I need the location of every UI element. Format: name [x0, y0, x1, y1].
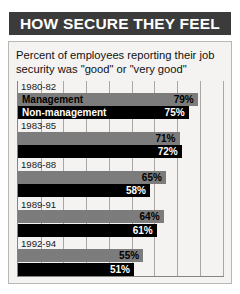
bar-non-management[interactable]: 58% — [18, 184, 150, 197]
bar-group: 1986-8865%58% — [18, 159, 224, 198]
year-label: 1983-85 — [21, 120, 56, 131]
bar-non-management[interactable]: 51% — [18, 263, 134, 276]
bar-value-label: 51% — [110, 264, 130, 275]
year-label: 1986-88 — [21, 159, 56, 170]
year-label: 1980-82 — [21, 81, 56, 92]
bar-group: 1980-82Management79%Non-management75% — [18, 81, 224, 120]
bar-row[interactable]: 71% — [18, 132, 180, 145]
bar-row[interactable]: 65% — [18, 171, 166, 184]
chart-subtitle: Percent of employees reporting their job… — [16, 48, 226, 76]
year-label: 1992-94 — [21, 238, 56, 249]
bar-value-label: 65% — [142, 172, 162, 183]
bar-non-management[interactable]: 61% — [18, 224, 157, 237]
bar-value-label: 55% — [119, 250, 139, 261]
chart-card: Percent of employees reporting their job… — [8, 41, 232, 284]
bar-value-label: 75% — [165, 107, 185, 118]
bar-management[interactable]: 65% — [18, 171, 166, 184]
bar-groups: 1980-82Management79%Non-management75%198… — [18, 81, 224, 276]
year-label: 1989-91 — [21, 199, 56, 210]
bar-row[interactable]: Management79% — [18, 93, 198, 106]
plot-area: 1980-82Management79%Non-management75%198… — [17, 81, 224, 277]
bar-value-label: 64% — [140, 211, 160, 222]
bar-group: 1983-8571%72% — [18, 120, 224, 159]
series-label: Non-management — [22, 107, 106, 118]
bar-row[interactable]: 58% — [18, 184, 150, 197]
bar-management[interactable]: 71% — [18, 132, 180, 145]
bar-non-management[interactable]: Non-management75% — [18, 106, 189, 119]
bar-row[interactable]: 55% — [18, 249, 143, 262]
bar-management[interactable]: 55% — [18, 249, 143, 262]
bar-row[interactable]: 61% — [18, 224, 157, 237]
bar-group: 1989-9164%61% — [18, 199, 224, 238]
bar-value-label: 71% — [155, 133, 175, 144]
bar-row[interactable]: 64% — [18, 210, 164, 223]
series-label: Management — [22, 94, 83, 105]
bar-row[interactable]: 51% — [18, 263, 134, 276]
title-banner: HOW SECURE THEY FEEL — [9, 12, 231, 35]
page-title: HOW SECURE THEY FEEL — [20, 15, 220, 33]
bar-non-management[interactable]: 72% — [18, 145, 182, 158]
bar-group: 1992-9455%51% — [18, 238, 224, 277]
bar-value-label: 58% — [126, 185, 146, 196]
chart-page: HOW SECURE THEY FEEL Percent of employee… — [0, 0, 240, 294]
bar-row[interactable]: 72% — [18, 145, 182, 158]
bar-management[interactable]: Management79% — [18, 93, 198, 106]
bar-value-label: 79% — [174, 94, 194, 105]
bar-value-label: 61% — [133, 225, 153, 236]
bar-management[interactable]: 64% — [18, 210, 164, 223]
bar-value-label: 72% — [158, 146, 178, 157]
bar-row[interactable]: Non-management75% — [18, 106, 189, 119]
